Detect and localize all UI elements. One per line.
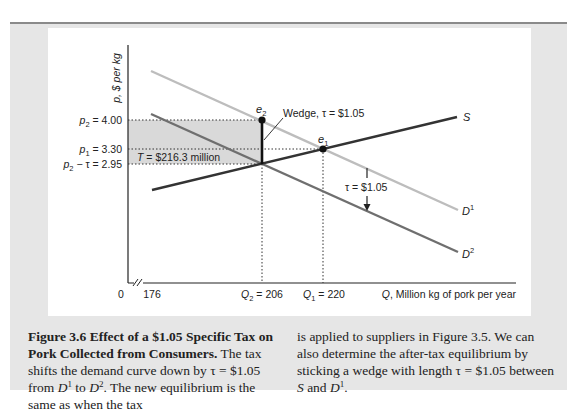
tau-arrow-label: τ = $1.05 — [345, 181, 388, 193]
tax-revenue-label: T = $216.3 million — [137, 151, 220, 163]
figure-label: Figure 3.6 — [28, 329, 86, 344]
x-tick-zero: 0 — [118, 288, 124, 300]
wedge-label: Wedge, τ = $1.05 — [283, 107, 364, 119]
caption-text: to — [72, 380, 89, 395]
d1-label: D1 — [462, 203, 474, 217]
caption-right-column: is applied to suppliers in Figure 3.5. W… — [297, 328, 559, 396]
caption-d2: D — [89, 380, 99, 395]
caption-d1: D — [330, 380, 340, 395]
caption-s: S — [297, 380, 304, 395]
caption-text: is applied to suppliers in Figure 3.5. W… — [297, 329, 554, 378]
caption-left-column: Figure 3.6 Effect of a $1.05 Specific Ta… — [28, 328, 278, 413]
y-axis-label: p, $ per kg — [110, 53, 122, 104]
x-axis-label: Q, Million kg of pork per year — [382, 288, 517, 300]
y-tick-p1: p1 = 3.30 — [79, 143, 123, 158]
caption-d1: D — [58, 380, 68, 395]
axis-break-icon — [133, 278, 143, 286]
e1-label: e1 — [318, 133, 328, 148]
x-tick-176: 176 — [143, 288, 161, 300]
y-tick-p2: p2 = 4.00 — [79, 114, 123, 129]
x-tick-q2: Q2 = 206 — [241, 288, 283, 303]
caption-text: and — [304, 380, 330, 395]
y-tick-p2-minus-tau: p2 − τ = 2.95 — [62, 158, 122, 173]
demand-curve-d2 — [151, 114, 458, 252]
x-tick-q1: Q1 = 220 — [303, 288, 345, 303]
e2-label: e2 — [256, 103, 266, 118]
caption-text: . — [344, 380, 347, 395]
d2-label: D2 — [462, 246, 474, 260]
supply-label: S — [463, 111, 471, 123]
